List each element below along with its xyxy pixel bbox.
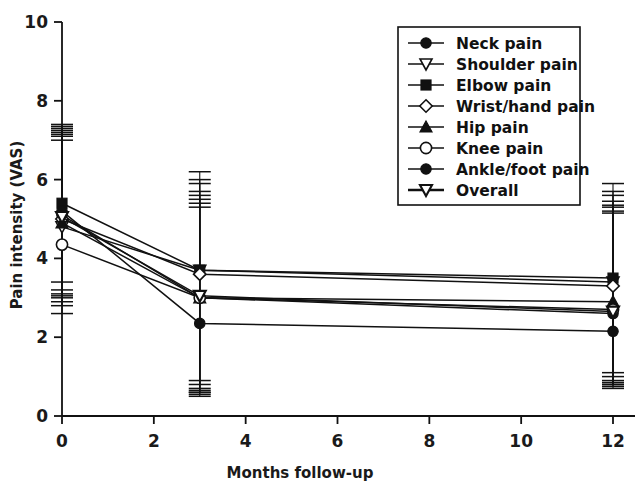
x-tick-label: 2 [148,431,160,451]
legend-label: Shoulder pain [456,56,578,74]
data-point-filled-circle [608,326,618,336]
data-point-open-circle [56,239,67,250]
x-tick-label: 0 [56,431,68,451]
y-axis-title: Pain intensity (VAS) [8,141,26,310]
data-point-filled-circle [421,164,431,174]
x-axis-title: Months follow-up [227,464,374,482]
y-tick-label: 4 [36,248,48,268]
legend: Neck painShoulder painElbow painWrist/ha… [398,27,595,205]
y-tick-label: 6 [36,170,48,190]
legend-label: Elbow pain [456,77,551,95]
legend-label: Overall [456,182,519,200]
y-tick-label: 0 [36,406,48,426]
legend-label: Hip pain [456,119,529,137]
x-tick-label: 4 [240,431,252,451]
y-tick-label: 2 [36,327,48,347]
pain-intensity-line-chart: 0246810024681012 Months follow-up Pain i… [0,0,639,490]
x-tick-label: 12 [601,431,625,451]
x-tick-label: 8 [423,431,435,451]
legend-label: Wrist/hand pain [456,98,595,116]
y-tick-label: 10 [24,12,48,32]
data-point-open-circle [420,142,431,153]
legend-label: Ankle/foot pain [456,161,590,179]
chart-figure: 0246810024681012 Months follow-up Pain i… [0,0,639,490]
x-tick-label: 6 [332,431,344,451]
data-point-filled-circle [195,318,205,328]
legend-label: Neck pain [456,35,542,53]
data-point-filled-square [421,80,431,90]
y-tick-label: 8 [36,91,48,111]
data-point-filled-circle [421,38,431,48]
x-tick-label: 10 [509,431,533,451]
legend-label: Knee pain [456,140,543,158]
